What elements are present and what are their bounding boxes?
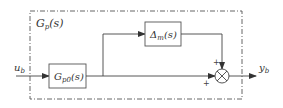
output-label: yb	[258, 62, 270, 75]
plant-label: Gp(s)	[36, 17, 64, 31]
plus-sign-top: +	[213, 58, 220, 67]
uncertainty-block: Δm(s)	[145, 22, 181, 46]
input-label: ub	[14, 62, 25, 75]
branch-to-uncertainty	[103, 34, 145, 76]
summing-junction	[215, 69, 229, 83]
plus-sign-left: +	[203, 79, 210, 88]
block-diagram: Gp(s) ub Gp0(s) Δm(s) + + yb	[0, 0, 283, 108]
nominal-block: Gp0(s)	[49, 64, 86, 88]
